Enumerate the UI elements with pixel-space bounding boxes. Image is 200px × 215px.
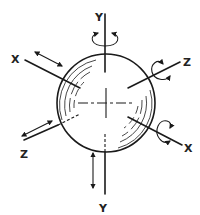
y-label-top: Y — [94, 11, 104, 24]
z-label-upper-right: Z — [183, 56, 191, 69]
sphere-axes-diagram: Y Y X X Z Z — [0, 0, 200, 215]
x-label-lower-right: X — [184, 142, 193, 155]
z-rotation-arrow-icon — [152, 62, 170, 80]
sphere — [57, 54, 155, 152]
x-translation-arrow-icon — [35, 52, 62, 66]
x-rotation-arrow-icon — [157, 121, 171, 142]
y-label-bottom: Y — [98, 202, 108, 215]
y-axis: Y Y — [92, 11, 118, 215]
x-label-upper-left: X — [11, 53, 20, 66]
z-label-lower-left: Z — [20, 148, 28, 161]
